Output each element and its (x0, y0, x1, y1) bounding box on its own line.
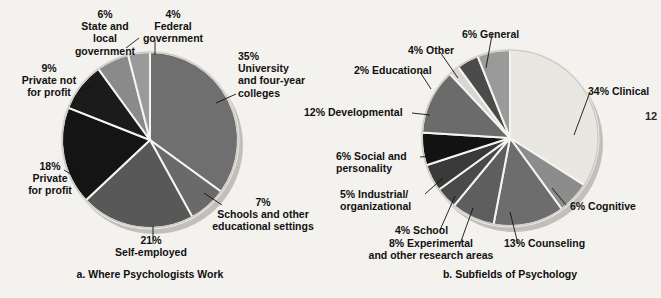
slice-label-schools: 7% Schools and other educational setting… (198, 196, 328, 233)
slice-label-university: 35% University and four-year colleges (238, 50, 333, 99)
slice-label-developmental: 12% Developmental (304, 106, 424, 118)
slice-label-clinical: 34% Clinical (588, 85, 661, 97)
slice-label-private_for_profit: 18% Private for profit (8, 160, 92, 197)
slice-label-private_not_for_profit: 9% Private not for profit (2, 62, 96, 99)
figure-canvas: 35% University and four-year colleges7% … (0, 0, 661, 298)
slice-label-self_employed: 21% Self-employed (96, 234, 206, 258)
slice-label-general: 6% General (462, 28, 542, 40)
slice-label-other: 4% Other (408, 44, 478, 56)
page-number: 12 (645, 110, 657, 122)
chart-a-caption: a. Where Psychologists Work (77, 268, 224, 280)
slice-label-counseling: 13% Counseling (504, 237, 606, 249)
slice-label-experimental: 8% Experimental and other research areas (358, 237, 504, 261)
chart-b-caption: b. Subfields of Psychology (443, 268, 577, 280)
slice-label-federal: 4% Federal government (118, 8, 228, 45)
slice-label-industrial: 5% Industrial/ organizational (340, 188, 440, 212)
slice-label-cognitive: 6% Cognitive (570, 200, 654, 212)
slice-label-educational: 2% Educational (354, 64, 454, 76)
slice-label-school: 4% School (395, 224, 469, 236)
slice-label-social: 6% Social and personality (336, 150, 432, 174)
